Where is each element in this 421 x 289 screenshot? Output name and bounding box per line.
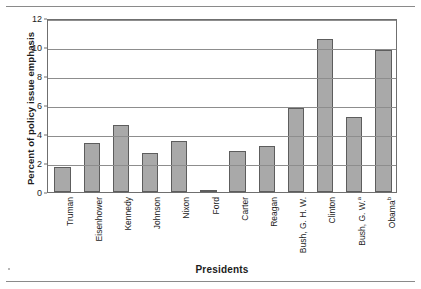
y-tick-mark-8: [44, 77, 47, 78]
y-tick-label-4: 4: [16, 130, 42, 140]
bar: [288, 108, 304, 192]
gridline-12: [48, 20, 396, 21]
x-tick-label: Obamab: [386, 197, 397, 228]
gridline-10: [48, 49, 396, 50]
bar: [142, 153, 158, 192]
gridline-6: [48, 107, 396, 108]
x-tick-label: Carter: [240, 197, 250, 221]
y-tick-mark-10: [44, 48, 47, 49]
bar: [259, 146, 275, 192]
x-tick-label: Eisenhower: [94, 197, 104, 241]
bar: [346, 117, 362, 192]
y-tick-label-6: 6: [16, 101, 42, 111]
bar: [84, 143, 100, 192]
plot-area: [47, 19, 397, 193]
bottom-rule: [6, 281, 415, 282]
bar: [229, 151, 245, 192]
y-tick-label-12: 12: [16, 14, 42, 24]
x-axis-title: Presidents: [47, 264, 397, 275]
gridline-4: [48, 136, 396, 137]
bar-chart-figure: Percent of policy issue emphasis Preside…: [0, 8, 421, 282]
bar: [375, 50, 391, 192]
gridline-8: [48, 78, 396, 79]
y-tick-mark-6: [44, 106, 47, 107]
y-tick-mark-2: [44, 164, 47, 165]
x-tick-label: Kennedy: [123, 197, 133, 231]
y-tick-mark-4: [44, 135, 47, 136]
x-tick-label: Johnson: [152, 197, 162, 229]
y-tick-label-8: 8: [16, 72, 42, 82]
bar: [113, 125, 129, 192]
bar-series: [48, 20, 396, 192]
y-tick-mark-0: [44, 193, 47, 194]
x-tick-label: Nixon: [181, 197, 191, 219]
bar: [200, 190, 216, 192]
top-rule: [6, 6, 415, 7]
bar: [317, 39, 333, 192]
page-speck: [8, 268, 10, 270]
bar: [54, 167, 70, 192]
x-tick-label: Bush, G. W.a: [356, 197, 367, 246]
x-tick-label: Ford: [211, 197, 221, 214]
x-tick-label: Reagan: [269, 197, 279, 227]
x-tick-label: Bush, G. H. W.: [298, 197, 308, 253]
x-tick-label: Clinton: [327, 197, 337, 223]
y-tick-label-0: 0: [16, 188, 42, 198]
y-tick-label-2: 2: [16, 159, 42, 169]
bar: [171, 141, 187, 192]
y-tick-label-10: 10: [16, 43, 42, 53]
y-tick-mark-12: [44, 19, 47, 20]
x-tick-label: Truman: [65, 197, 75, 226]
gridline-2: [48, 165, 396, 166]
